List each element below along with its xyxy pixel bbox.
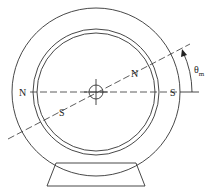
base-mount — [47, 163, 145, 186]
angle-arrowhead-icon — [181, 49, 187, 57]
stator-south-label: S — [170, 87, 176, 98]
rotor-south-label: S — [59, 107, 65, 118]
machine-diagram: N S N S θm — [0, 0, 218, 191]
rotor-north-label: N — [131, 68, 138, 79]
stator-north-label: N — [19, 87, 26, 98]
rotor-magnetic-axis — [8, 44, 190, 139]
angle-theta-label: θm — [194, 64, 205, 78]
angle-arc — [183, 52, 192, 92]
